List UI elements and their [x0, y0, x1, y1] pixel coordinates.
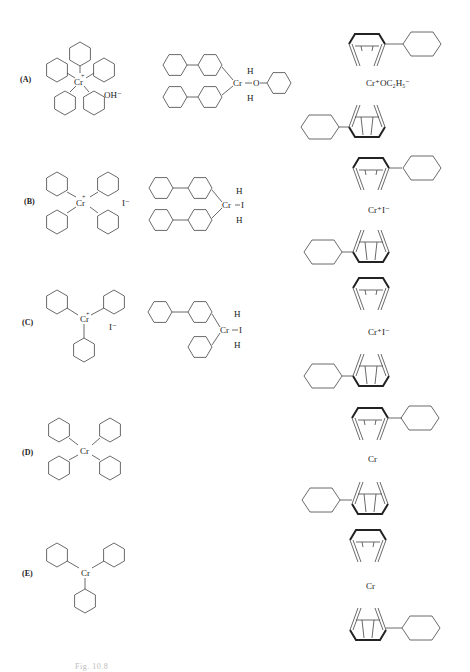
sandwich-structure-b: Cr⁺I⁻: [304, 156, 441, 264]
charge: +: [86, 311, 90, 317]
h-ligand: H: [236, 215, 243, 225]
counterion: I⁻: [109, 322, 117, 332]
cr-center: Cr: [80, 446, 89, 456]
row-c: (C) Cr + I⁻ Cr H I H Cr⁺I⁻: [22, 278, 390, 388]
h-ligand: H: [247, 66, 254, 76]
charge: +: [82, 194, 86, 200]
ionic-structure-c: Cr + I⁻: [47, 290, 125, 362]
chemical-structures-diagram: (A) Cr + OH⁻ Cr H H: [0, 0, 470, 672]
row-label-a: (A): [20, 75, 31, 84]
charge: +: [81, 73, 85, 79]
h-ligand: H: [234, 340, 241, 350]
o-ligand: O: [253, 78, 260, 88]
ionic-structure-a: Cr + OH⁻: [47, 42, 122, 115]
row-label-c: (C): [22, 318, 33, 327]
row-label-d: (D): [22, 448, 33, 457]
sandwich-label: Cr: [368, 454, 377, 464]
covalent-structure-b: Cr H I H: [149, 178, 244, 231]
row-e: (E) Cr Cr: [22, 530, 440, 640]
ionic-structure-e: Cr: [47, 543, 125, 613]
h-ligand: H: [234, 309, 241, 319]
figure-caption: Fig. 10.8: [75, 662, 108, 671]
cr-center: Cr: [220, 325, 229, 335]
h-ligand: H: [247, 93, 254, 103]
sandwich-label: Cr⁺I⁻: [368, 327, 390, 337]
covalent-structure-c: Cr H I H: [148, 302, 242, 358]
cr-center: Cr: [222, 200, 231, 210]
covalent-structure-a: Cr H H O: [163, 55, 291, 108]
counterion: I⁻: [122, 198, 130, 208]
cr-center: Cr: [81, 568, 90, 578]
row-label-e: (E): [22, 569, 33, 578]
i-ligand: I: [239, 325, 242, 335]
h-ligand: H: [236, 186, 243, 196]
sandwich-structure-a: Cr⁺OC₂H₅⁻: [301, 32, 441, 139]
sandwich-label: Cr⁺OC₂H₅⁻: [366, 78, 410, 88]
i-ligand: I: [241, 200, 244, 210]
counterion: OH⁻: [104, 90, 122, 100]
row-label-b: (B): [24, 197, 35, 206]
ionic-structure-b: Cr + I⁻: [47, 172, 130, 234]
sandwich-label: Cr: [366, 581, 375, 591]
cr-center: Cr: [233, 78, 242, 88]
sandwich-label: Cr⁺I⁻: [368, 205, 390, 215]
sandwich-structure-e: Cr: [350, 530, 440, 640]
row-a: (A) Cr + OH⁻ Cr H H: [20, 32, 441, 139]
sandwich-structure-c: Cr⁺I⁻: [304, 278, 390, 388]
ionic-structure-d: Cr: [49, 418, 121, 480]
sandwich-structure-d: Cr: [302, 406, 439, 514]
row-b: (B) Cr + I⁻ Cr H I H: [24, 156, 441, 264]
row-d: (D) Cr Cr: [22, 406, 439, 514]
